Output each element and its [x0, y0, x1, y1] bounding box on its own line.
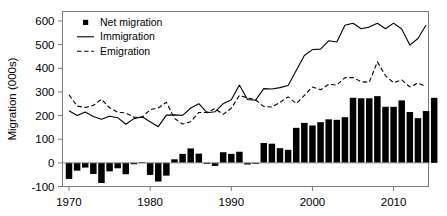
bar — [317, 122, 323, 163]
bar — [261, 143, 267, 163]
y-axis-tick-label: 400 — [35, 62, 54, 74]
chart-canvas: -100010020030040050060019701980199020002… — [0, 0, 447, 216]
legend-label: Immigration — [100, 30, 155, 42]
bar — [423, 111, 429, 163]
bar — [123, 163, 129, 174]
y-axis-tick-label: 500 — [35, 39, 54, 51]
y-axis-tick-label: -100 — [31, 181, 54, 193]
x-axis-tick-label: 1990 — [219, 196, 245, 208]
y-axis-tick-label: 0 — [48, 157, 54, 169]
x-axis-tick-label: 1980 — [137, 196, 163, 208]
bar — [114, 163, 120, 168]
net-migration-bars — [66, 96, 438, 183]
bar — [74, 163, 80, 171]
bar — [66, 163, 72, 179]
bar — [90, 163, 96, 174]
y-axis-tick-label: 100 — [35, 133, 54, 145]
bar — [334, 120, 340, 163]
bar — [285, 150, 291, 163]
y-axis-tick-label: 200 — [35, 110, 54, 122]
bar — [155, 163, 161, 182]
bar — [398, 100, 404, 162]
legend-label: Net migration — [100, 16, 163, 28]
migration-chart: -100010020030040050060019701980199020002… — [0, 0, 447, 216]
bar — [228, 154, 234, 163]
bar — [98, 163, 104, 183]
bar — [220, 152, 226, 163]
legend-marker-square — [83, 20, 88, 25]
bar — [350, 98, 356, 163]
bar — [82, 163, 88, 168]
bar — [277, 148, 283, 163]
bar — [301, 123, 307, 163]
bar — [147, 163, 153, 175]
y-axis-title: Migration (000s) — [6, 57, 18, 140]
bar — [374, 96, 380, 163]
bar — [342, 117, 348, 163]
bar — [196, 154, 202, 163]
bar — [309, 125, 315, 162]
bar — [163, 163, 169, 176]
bar — [236, 152, 242, 163]
x-axis-tick-label: 2000 — [300, 196, 326, 208]
bar — [390, 107, 396, 163]
bar — [407, 112, 413, 163]
bar — [293, 128, 299, 163]
bar — [106, 163, 112, 172]
bar — [366, 98, 372, 163]
bar — [431, 98, 437, 163]
chart-legend: Net migrationImmigrationEmigration — [77, 16, 163, 57]
y-axis-tick-label: 300 — [35, 86, 54, 98]
bar — [358, 98, 364, 163]
emigration-line — [69, 62, 426, 124]
bar — [415, 118, 421, 163]
y-axis-tick-label: 600 — [35, 15, 54, 27]
legend-label: Emigration — [100, 45, 150, 57]
bar — [171, 159, 177, 163]
bar — [382, 107, 388, 163]
bar — [179, 154, 185, 163]
x-axis-tick-label: 1970 — [56, 196, 82, 208]
x-axis-tick-label: 2010 — [381, 196, 407, 208]
bar — [269, 144, 275, 163]
bar — [187, 148, 193, 162]
bar — [325, 119, 331, 163]
